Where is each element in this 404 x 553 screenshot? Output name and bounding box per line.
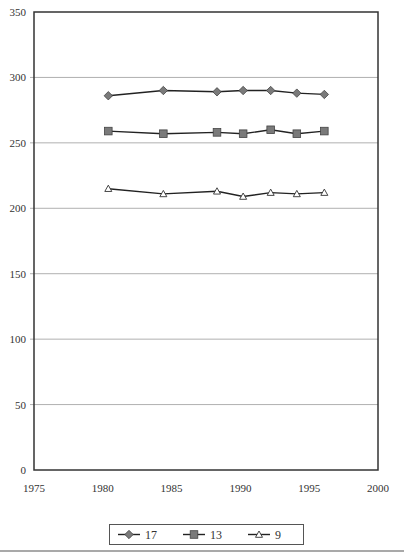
y-axis-ticks: 050100150200250300350 [10, 6, 27, 476]
y-tick-label: 100 [10, 333, 27, 345]
plot-area-border [34, 12, 378, 470]
diamond-marker [104, 92, 112, 100]
square-marker [267, 126, 275, 134]
diamond-marker [213, 88, 221, 96]
square-marker [105, 127, 113, 135]
x-tick-label: 1995 [298, 482, 321, 494]
y-tick-label: 350 [10, 6, 27, 18]
series-17 [104, 86, 328, 100]
legend-label: 13 [210, 528, 222, 542]
diamond-marker [159, 86, 167, 94]
y-tick-label: 150 [10, 268, 27, 280]
y-tick-label: 300 [10, 71, 27, 83]
diamond-marker [293, 89, 301, 97]
y-tick-label: 200 [10, 202, 27, 214]
legend-label: 9 [275, 528, 281, 542]
legend: 17139 [110, 525, 304, 545]
x-tick-label: 1975 [23, 482, 46, 494]
x-tick-label: 2000 [367, 482, 390, 494]
x-axis-ticks: 197519801985199019952000 [23, 482, 390, 494]
square-marker [160, 130, 168, 138]
y-tick-label: 50 [15, 399, 27, 411]
square-marker [190, 531, 198, 539]
gridlines [30, 77, 378, 404]
square-marker [293, 130, 301, 138]
y-tick-label: 0 [21, 464, 27, 476]
y-tick-label: 250 [10, 137, 27, 149]
legend-label: 17 [145, 528, 157, 542]
square-marker [213, 129, 221, 137]
square-marker [321, 127, 329, 135]
series-13 [105, 126, 329, 138]
x-tick-label: 1980 [92, 482, 115, 494]
series-9 [105, 185, 328, 199]
square-marker [239, 130, 247, 138]
diamond-marker [266, 86, 274, 94]
x-tick-label: 1985 [161, 482, 184, 494]
diamond-marker [320, 90, 328, 98]
line-chart: 050100150200250300350 197519801985199019… [0, 0, 404, 553]
diamond-marker [239, 86, 247, 94]
x-tick-label: 1990 [229, 482, 252, 494]
